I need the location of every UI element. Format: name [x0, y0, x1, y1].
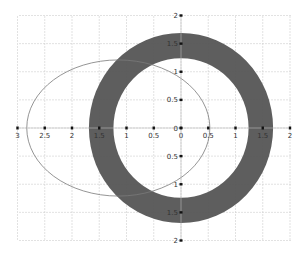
x-tick-label: 2.5	[39, 132, 50, 140]
x-tick-mark	[262, 127, 264, 130]
chart-plot-area: 32.521.510.500.511.52 21.510.500.511.52	[0, 0, 307, 260]
y-tick-label: 0.5	[167, 96, 178, 104]
x-tick-mark	[234, 127, 236, 130]
y-tick-label: 0	[174, 125, 178, 133]
x-tick-label: 1	[124, 132, 128, 140]
x-tick-label: 3	[15, 132, 19, 140]
x-tick-label: 1.5	[94, 132, 105, 140]
x-tick-mark	[44, 127, 46, 130]
y-tick-mark	[180, 99, 183, 101]
y-tick-label: 1	[174, 181, 178, 189]
x-tick-mark	[71, 127, 73, 130]
x-tick-mark	[207, 127, 209, 130]
x-tick-label: 2	[70, 132, 74, 140]
x-tick-label: 2	[288, 132, 292, 140]
x-tick-label: 1.5	[257, 132, 268, 140]
x-tick-mark	[16, 127, 18, 130]
y-tick-mark	[180, 155, 183, 157]
y-tick-label: 2	[174, 12, 178, 20]
y-tick-mark	[180, 183, 183, 185]
y-tick-mark	[180, 14, 183, 16]
y-tick-mark	[180, 71, 183, 73]
x-tick-label: 0.5	[203, 132, 214, 140]
y-tick-label: 1.5	[167, 40, 178, 48]
y-tick-mark	[180, 239, 183, 241]
x-tick-mark	[125, 127, 127, 130]
y-tick-label: 0.5	[167, 153, 178, 161]
x-tick-mark	[153, 127, 155, 130]
y-tick-mark	[180, 42, 183, 44]
x-tick-label: 1	[233, 132, 237, 140]
x-tick-label: 0.5	[148, 132, 159, 140]
x-tick-mark	[98, 127, 100, 130]
y-tick-label: 2	[174, 237, 178, 245]
x-tick-mark	[289, 127, 291, 130]
y-tick-label: 1	[174, 68, 178, 76]
y-tick-mark	[180, 127, 183, 129]
y-tick-mark	[180, 211, 183, 213]
y-tick-label: 1.5	[167, 209, 178, 217]
